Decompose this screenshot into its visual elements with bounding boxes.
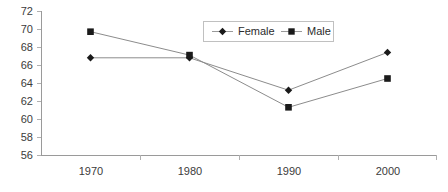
y-tick-label: 70 bbox=[21, 23, 33, 35]
x-tick-label: 1980 bbox=[178, 165, 202, 177]
y-axis-ticks bbox=[37, 12, 41, 156]
chart-canvas: 72 70 68 66 64 62 60 58 56 1970 1980 199… bbox=[0, 0, 448, 192]
square-marker-icon bbox=[87, 28, 94, 35]
x-tick-label: 1970 bbox=[79, 165, 103, 177]
chart-legend: Female Male bbox=[204, 22, 334, 42]
y-tick-label: 72 bbox=[21, 5, 33, 17]
legend-label-male: Male bbox=[307, 25, 331, 37]
y-tick-label: 64 bbox=[21, 77, 33, 89]
x-axis-tick-labels: 1970 1980 1990 2000 bbox=[79, 165, 400, 177]
square-marker-icon bbox=[186, 52, 193, 59]
y-axis-tick-labels: 72 70 68 66 64 62 60 58 56 bbox=[21, 5, 33, 161]
y-tick-label: 60 bbox=[21, 113, 33, 125]
y-tick-label: 56 bbox=[21, 149, 33, 161]
y-tick-label: 62 bbox=[21, 95, 33, 107]
square-marker-icon bbox=[288, 28, 294, 34]
x-tick-label: 1990 bbox=[277, 165, 301, 177]
legend-label-female: Female bbox=[238, 25, 275, 37]
square-marker-icon bbox=[384, 75, 391, 82]
square-marker-icon bbox=[285, 104, 292, 111]
y-tick-label: 58 bbox=[21, 131, 33, 143]
y-tick-label: 66 bbox=[21, 59, 33, 71]
line-chart: 72 70 68 66 64 62 60 58 56 1970 1980 199… bbox=[0, 0, 448, 192]
y-tick-label: 68 bbox=[21, 41, 33, 53]
x-tick-label: 2000 bbox=[376, 165, 400, 177]
